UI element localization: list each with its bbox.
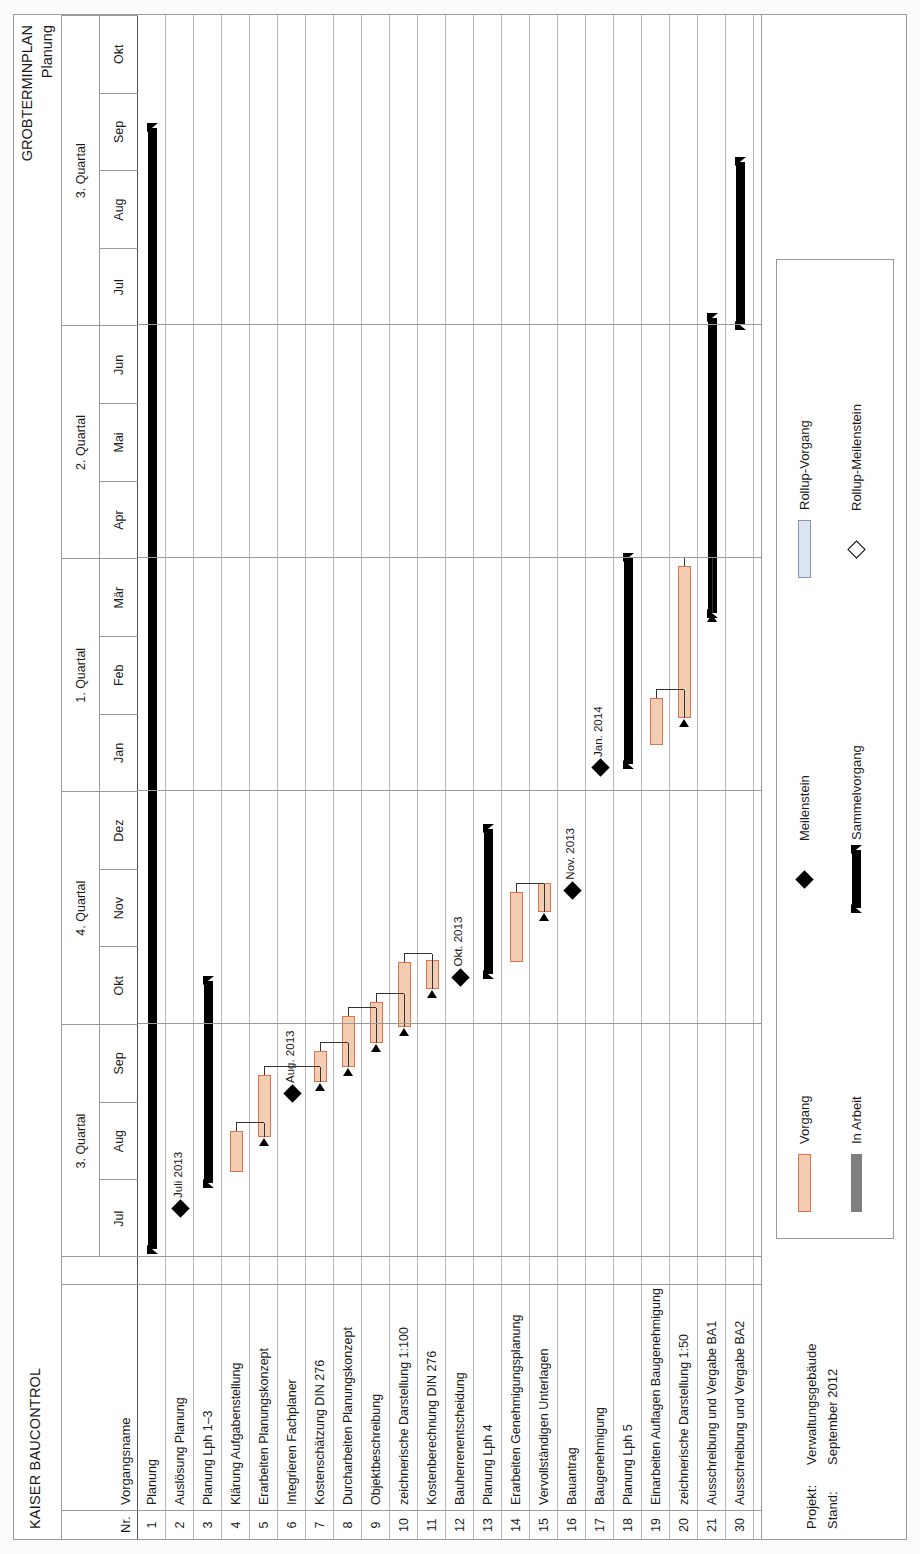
dependency-link [544, 884, 545, 911]
month-row: JulAugSepOktNovDezJanFebMärAprMaiJunJulA… [100, 15, 138, 1257]
project-footer: Projekt: Verwaltungsgebäude Stand: Septe… [802, 1344, 844, 1529]
row-number: 12 [446, 1511, 473, 1539]
milestone-label: Juli 2013 [172, 1152, 184, 1198]
legend-sammelvorgang-label: Sammelvorgang [849, 745, 864, 840]
row-number: 20 [670, 1511, 697, 1539]
row-task-name: Klärung Aufgabenstellung [222, 1287, 249, 1505]
dependency-arrow-icon [315, 1083, 325, 1091]
summary-bar[interactable] [484, 829, 493, 974]
rollup-meilenstein-diamond-icon [847, 540, 865, 558]
legend-in-arbeit-label: In Arbeit [849, 1096, 864, 1144]
milestone-label: Nov. 2013 [564, 828, 576, 880]
dependency-link [236, 1122, 264, 1123]
footer-stand-key: Stand: [823, 1465, 844, 1529]
legend-sammelvorgang: Sammelvorgang [849, 745, 864, 908]
row-number: 7 [306, 1511, 333, 1539]
footer-projekt-value: Verwaltungsgebäude [802, 1344, 823, 1465]
meilenstein-diamond-icon [795, 870, 813, 888]
dependency-link [264, 1066, 320, 1067]
milestone-marker[interactable] [283, 1085, 301, 1103]
bars-layer: Juli 2013Aug. 2013Okt. 2013Nov. 2013Jan.… [138, 15, 761, 1257]
row-task-name: Ausschreibung und Vergabe BA2 [726, 1287, 753, 1505]
dependency-link [516, 884, 517, 892]
row-task-name: Planung Lph 4 [474, 1287, 501, 1505]
summary-bar[interactable] [736, 163, 745, 326]
row-task-name: Planung Lph 5 [614, 1287, 641, 1505]
month-cell: Feb [100, 636, 138, 714]
rollup-vorgang-swatch [798, 520, 811, 578]
legend-meilenstein-label: Meilenstein [797, 775, 812, 841]
row-task-name: Kostenschätzung DIN 276 [306, 1287, 333, 1505]
task-bar[interactable] [650, 698, 663, 745]
task-bar[interactable] [510, 892, 523, 962]
row-task-name: Objektbeschreibung [362, 1287, 389, 1505]
vorgang-swatch [798, 1154, 811, 1212]
row-number: 1 [138, 1511, 165, 1539]
quarter-separator [138, 325, 761, 326]
row-number: 6 [278, 1511, 305, 1539]
month-cell: Sep [100, 93, 138, 171]
row-number: 17 [586, 1511, 613, 1539]
dependency-arrow-icon [371, 1044, 381, 1052]
legend-area: Projekt: Verwaltungsgebäude Stand: Septe… [762, 15, 908, 1539]
dependency-link [376, 993, 404, 994]
summary-bar[interactable] [624, 558, 633, 764]
gantt-grid: Nr. Vorgangsname 3. Quartal4. Quartal1. … [62, 15, 762, 1539]
month-cell: Aug [100, 170, 138, 248]
gantt-sheet: KAISER BAUCONTROL GROBTERMINPLAN Planung… [13, 14, 907, 1540]
dependency-arrow-icon [343, 1068, 353, 1076]
row-task-name: Durcharbeiten Planungskonzept [334, 1287, 361, 1505]
month-cell: Jun [100, 326, 138, 404]
month-cell: Nov [100, 869, 138, 947]
summary-bar[interactable] [204, 981, 213, 1183]
row-number: 3 [194, 1511, 221, 1539]
month-cell: Okt [100, 947, 138, 1025]
task-bar[interactable] [230, 1131, 243, 1171]
dependency-link [236, 1123, 237, 1131]
row-task-name: Vervollständigen Unterlagen [530, 1287, 557, 1505]
footer-stand-row: Stand: September 2012 [823, 1344, 844, 1529]
col-sep-nr [62, 1510, 761, 1511]
company-name: KAISER BAUCONTROL [27, 1368, 43, 1529]
footer-stand-value: September 2012 [823, 1369, 844, 1465]
row-number: 14 [502, 1511, 529, 1539]
dependency-link [348, 1007, 376, 1008]
month-cell: Dez [100, 791, 138, 869]
dependency-arrow-icon [399, 1028, 409, 1036]
dependency-arrow-icon [259, 1138, 269, 1146]
row-task-name: Planung Lph 1–3 [194, 1287, 221, 1505]
milestone-marker[interactable] [171, 1200, 189, 1218]
row-task-name: Erarbeiten Genehmigungsplanung [502, 1287, 529, 1505]
month-cell: Jul [100, 248, 138, 326]
rotated-sheet-wrapper: KAISER BAUCONTROL GROBTERMINPLAN Planung… [0, 0, 920, 1554]
col-sep-plot [62, 1256, 761, 1257]
quarter-cell: 3. Quartal [62, 15, 100, 326]
dependency-link [432, 954, 433, 989]
plan-title: GROBTERMINPLAN Planung [18, 25, 57, 161]
milestone-marker[interactable] [563, 881, 581, 899]
dependency-link [320, 1042, 348, 1043]
dependency-link [656, 689, 684, 690]
row-number: 2 [166, 1511, 193, 1539]
month-cell: Okt [100, 15, 138, 93]
row-task-name: Auslösung Planung [166, 1287, 193, 1505]
quarter-cell: 1. Quartal [62, 558, 100, 791]
milestone-marker[interactable] [451, 968, 469, 986]
legend-box: Vorgang In Arbeit Meilenstein Sammelvorg… [776, 259, 894, 1239]
dependency-arrow-icon [427, 990, 437, 998]
footer-projekt-row: Projekt: Verwaltungsgebäude [802, 1344, 823, 1529]
dependency-link [684, 558, 685, 566]
month-cell: Mai [100, 403, 138, 481]
row-number: 15 [530, 1511, 557, 1539]
legend-vorgang-label: Vorgang [797, 1096, 812, 1144]
milestone-label: Okt. 2013 [452, 917, 464, 967]
dependency-link [684, 690, 685, 717]
dependency-link [348, 1008, 349, 1016]
row-number: 11 [418, 1511, 445, 1539]
milestone-label: Jan. 2014 [592, 706, 604, 757]
milestone-marker[interactable] [591, 759, 609, 777]
row-number: 19 [642, 1511, 669, 1539]
row-task-name: Planung [138, 1287, 165, 1505]
dependency-arrow-icon [539, 913, 549, 921]
summary-bar[interactable] [148, 128, 157, 1250]
